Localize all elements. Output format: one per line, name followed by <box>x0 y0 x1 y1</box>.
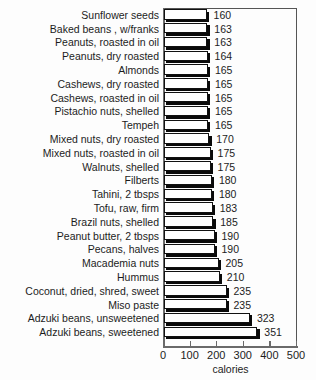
bar-area: 175 <box>164 146 316 160</box>
category-label: Pistachio nuts, shelled <box>55 106 159 117</box>
bar-area: 175 <box>164 160 316 174</box>
bar-value-label: 163 <box>214 37 232 48</box>
bar-row: Baked beans , w/franks163 <box>0 22 316 36</box>
bar-row: Tofu, raw, firm183 <box>0 201 316 215</box>
bar <box>164 202 213 212</box>
x-tick-mark <box>216 341 217 347</box>
category-label: Pecans, halves <box>88 244 159 255</box>
bar-row: Macademia nuts205 <box>0 256 316 270</box>
x-tick-mark <box>163 341 164 347</box>
bar-row: Cashews, roasted in oil165 <box>0 91 316 105</box>
bar-value-label: 180 <box>219 189 237 200</box>
bar-chart: Sunflower seeds160Baked beans , w/franks… <box>0 0 316 380</box>
category-label: Almonds <box>118 65 159 76</box>
bar-row: Tahini, 2 tbsps180 <box>0 187 316 201</box>
category-label: Peanut butter, 2 tbsps <box>57 230 159 241</box>
bar-row: Adzuki beans, sweetened351 <box>0 325 316 339</box>
bar-value-label: 185 <box>220 216 238 227</box>
bar-area: 180 <box>164 174 316 188</box>
x-tick-mark <box>296 341 297 347</box>
bar <box>164 244 215 254</box>
x-tick-label: 500 <box>287 349 305 361</box>
bar <box>164 37 207 47</box>
bar-value-label: 165 <box>215 106 233 117</box>
bar <box>164 285 227 295</box>
category-label: Coconut, dried, shred, sweet <box>25 285 159 296</box>
category-label: Cashews, roasted in oil <box>50 92 159 103</box>
category-label: Cashews, dry roasted <box>57 78 159 89</box>
category-label: Mixed nuts, dry roasted <box>50 134 159 145</box>
bar-area: 183 <box>164 201 316 215</box>
bar <box>164 189 212 199</box>
bar-value-label: 351 <box>264 327 282 338</box>
bar-face <box>164 51 208 61</box>
bar-face <box>164 106 208 116</box>
bar-row: Adzuki beans, unsweetened323 <box>0 312 316 326</box>
category-label: Hummus <box>117 272 159 283</box>
bar-row: Peanuts, dry roasted164 <box>0 49 316 63</box>
bar-area: 160 <box>164 8 316 22</box>
bar-area: 163 <box>164 36 316 50</box>
bar-row: Walnuts, shelled175 <box>0 160 316 174</box>
bar-area: 323 <box>164 312 316 326</box>
category-label: Tofu, raw, firm <box>94 203 159 214</box>
x-tick-mark <box>190 341 191 347</box>
category-label: Brazil nuts, shelled <box>71 216 159 227</box>
x-tick-label: 200 <box>207 349 225 361</box>
category-label: Tahini, 2 tbsps <box>92 189 159 200</box>
category-label: Filberts <box>125 175 159 186</box>
bar-value-label: 190 <box>222 244 240 255</box>
bar-value-label: 165 <box>215 92 233 103</box>
bar-value-label: 205 <box>226 258 244 269</box>
bar-value-label: 170 <box>216 134 234 145</box>
bar-face <box>164 285 227 295</box>
bar-row: Almonds165 <box>0 63 316 77</box>
bar-face <box>164 258 219 268</box>
bar-face <box>164 244 215 254</box>
x-tick-label: 100 <box>180 349 198 361</box>
bar-face <box>164 133 209 143</box>
bar-face <box>164 299 227 309</box>
bar-row: Peanut butter, 2 tbsps190 <box>0 229 316 243</box>
bar-value-label: 183 <box>220 203 238 214</box>
bar-area: 163 <box>164 22 316 36</box>
bar-value-label: 180 <box>219 175 237 186</box>
bar <box>164 92 208 102</box>
category-label: Miso paste <box>108 299 159 310</box>
bar <box>164 230 215 240</box>
bar-value-label: 175 <box>218 147 236 158</box>
category-label: Macademia nuts <box>82 258 159 269</box>
bar-area: 164 <box>164 49 316 63</box>
bar-value-label: 165 <box>215 120 233 131</box>
category-label: Adzuki beans, sweetened <box>39 327 159 338</box>
bar-row: Coconut, dried, shred, sweet235 <box>0 284 316 298</box>
bar-face <box>164 230 215 240</box>
bar <box>164 9 207 19</box>
bar <box>164 147 211 157</box>
category-label: Baked beans , w/franks <box>50 23 159 34</box>
bar-row: Miso paste235 <box>0 298 316 312</box>
bar <box>164 313 250 323</box>
x-axis-line <box>163 346 298 348</box>
bar-area: 165 <box>164 91 316 105</box>
x-tick-mark <box>243 341 244 347</box>
bar-rows: Sunflower seeds160Baked beans , w/franks… <box>0 8 316 339</box>
bar <box>164 51 208 61</box>
category-label: Sunflower seeds <box>81 9 159 20</box>
bar-area: 185 <box>164 215 316 229</box>
x-tick-label: 400 <box>260 349 278 361</box>
bar-face <box>164 120 208 130</box>
bar-value-label: 235 <box>234 285 252 296</box>
bar-face <box>164 327 257 337</box>
bar-row: Pecans, halves190 <box>0 243 316 257</box>
bar-area: 210 <box>164 270 316 284</box>
bar-area: 165 <box>164 118 316 132</box>
x-tick-label: 0 <box>160 349 166 361</box>
bar-area: 190 <box>164 229 316 243</box>
bar-area: 170 <box>164 132 316 146</box>
bar-area: 205 <box>164 256 316 270</box>
bar <box>164 327 257 337</box>
x-axis-title: calories <box>163 363 298 375</box>
bar <box>164 64 208 74</box>
category-label: Peanuts, roasted in oil <box>55 37 159 48</box>
